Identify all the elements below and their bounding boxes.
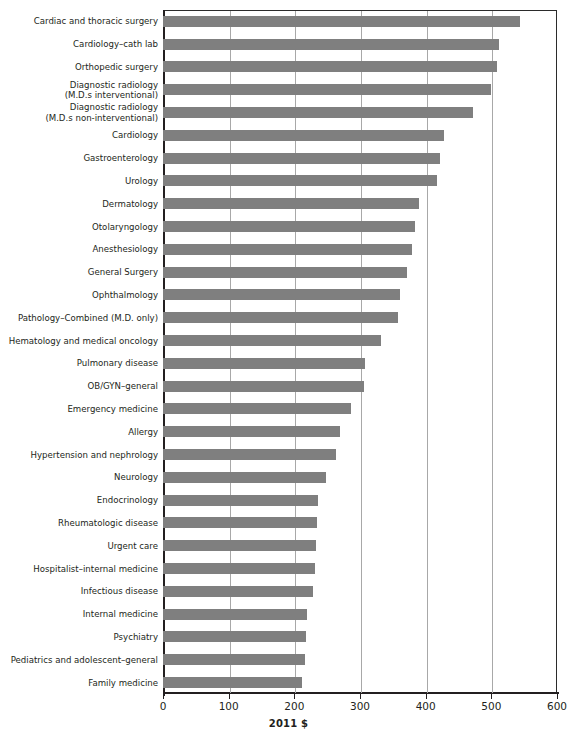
bar-row xyxy=(163,101,557,124)
category-label: Urology xyxy=(0,176,158,186)
bar-row xyxy=(163,56,557,79)
category-label: Allergy xyxy=(0,427,158,437)
bar-row xyxy=(163,329,557,352)
x-tick-0 xyxy=(163,694,164,699)
category-label: Gastroenterology xyxy=(0,153,158,163)
category-label: OB/GYN–general xyxy=(0,381,158,391)
bar-row xyxy=(163,398,557,421)
x-tick-200 xyxy=(294,694,295,699)
category-label: Diagnostic radiology (M.D.s intervention… xyxy=(0,80,158,100)
bars-layer xyxy=(163,10,557,694)
category-label: Cardiac and thoracic surgery xyxy=(0,16,158,26)
bar xyxy=(163,472,326,483)
category-label: Ophthalmology xyxy=(0,290,158,300)
category-label: Endocrinology xyxy=(0,495,158,505)
category-label: General Surgery xyxy=(0,267,158,277)
category-label: Otolaryngology xyxy=(0,222,158,232)
bar xyxy=(163,84,491,95)
category-label: Anesthesiology xyxy=(0,244,158,254)
x-tick-label: 200 xyxy=(284,700,304,712)
x-tick-label: 400 xyxy=(416,700,436,712)
bar xyxy=(163,16,520,27)
bar xyxy=(163,221,415,232)
bar-row xyxy=(163,671,557,694)
category-label: Psychiatry xyxy=(0,632,158,642)
bar-chart: Cardiac and thoracic surgeryCardiology–c… xyxy=(0,0,577,737)
category-label: Orthopedic surgery xyxy=(0,62,158,72)
bar xyxy=(163,631,306,642)
category-label: Cardiology–cath lab xyxy=(0,39,158,49)
bar xyxy=(163,517,317,528)
category-label: Pediatrics and adolescent–general xyxy=(0,655,158,665)
bar-row xyxy=(163,170,557,193)
category-label: Pathology–Combined (M.D. only) xyxy=(0,313,158,323)
bar-row xyxy=(163,284,557,307)
bar-row xyxy=(163,603,557,626)
bar-row xyxy=(163,466,557,489)
x-tick-300 xyxy=(360,694,361,699)
bar-row xyxy=(163,192,557,215)
category-label: Pulmonary disease xyxy=(0,358,158,368)
bar xyxy=(163,335,381,346)
bar-row xyxy=(163,534,557,557)
bar-row xyxy=(163,489,557,512)
bar-row xyxy=(163,580,557,603)
bar xyxy=(163,495,318,506)
bar xyxy=(163,153,440,164)
bar xyxy=(163,61,497,72)
bar-row xyxy=(163,648,557,671)
bar-row xyxy=(163,10,557,33)
bar-row xyxy=(163,124,557,147)
category-label: Hypertension and nephrology xyxy=(0,450,158,460)
bar xyxy=(163,449,336,460)
bar xyxy=(163,175,437,186)
bar xyxy=(163,198,419,209)
x-tick-400 xyxy=(426,694,427,699)
category-label: Hospitalist–internal medicine xyxy=(0,564,158,574)
category-label: Emergency medicine xyxy=(0,404,158,414)
bar xyxy=(163,677,302,688)
bar-row xyxy=(163,238,557,261)
bar xyxy=(163,586,313,597)
bar-row xyxy=(163,443,557,466)
bar-row xyxy=(163,512,557,535)
bar xyxy=(163,654,305,665)
bar-row xyxy=(163,626,557,649)
bar xyxy=(163,381,364,392)
bar-row xyxy=(163,78,557,101)
bar xyxy=(163,426,340,437)
category-label: Infectious disease xyxy=(0,586,158,596)
bar xyxy=(163,403,351,414)
category-label: Rheumatologic disease xyxy=(0,518,158,528)
category-label: Hematology and medical oncology xyxy=(0,336,158,346)
category-labels: Cardiac and thoracic surgeryCardiology–c… xyxy=(0,10,158,694)
category-label: Urgent care xyxy=(0,541,158,551)
bar-row xyxy=(163,147,557,170)
x-tick-100 xyxy=(229,694,230,699)
x-tick-label: 0 xyxy=(160,700,167,712)
x-tick-label: 300 xyxy=(350,700,370,712)
x-tick-label: 100 xyxy=(219,700,239,712)
x-axis-title: 2011 $ xyxy=(0,718,577,729)
bar xyxy=(163,540,316,551)
bar xyxy=(163,39,499,50)
category-label: Diagnostic radiology (M.D.s non-interven… xyxy=(0,102,158,122)
bar xyxy=(163,312,398,323)
category-label: Dermatology xyxy=(0,199,158,209)
category-label: Cardiology xyxy=(0,130,158,140)
x-tick-label: 500 xyxy=(481,700,501,712)
bar-row xyxy=(163,215,557,238)
category-label: Family medicine xyxy=(0,678,158,688)
bar-row xyxy=(163,557,557,580)
bar xyxy=(163,107,473,118)
x-tick-label: 600 xyxy=(547,700,567,712)
bar xyxy=(163,289,400,300)
bar-row xyxy=(163,375,557,398)
bar xyxy=(163,358,365,369)
bar-row xyxy=(163,420,557,443)
x-tick-600 xyxy=(557,694,558,699)
bar xyxy=(163,563,315,574)
x-tick-500 xyxy=(491,694,492,699)
bar-row xyxy=(163,261,557,284)
bar-row xyxy=(163,306,557,329)
